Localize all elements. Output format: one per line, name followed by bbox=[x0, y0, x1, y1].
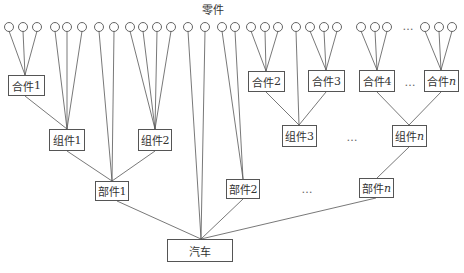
node-bujian2: 部件2 bbox=[226, 179, 260, 199]
part-circle bbox=[184, 23, 193, 32]
connector-line bbox=[235, 31, 243, 179]
node-index: n bbox=[417, 130, 424, 143]
node-index: 3 bbox=[307, 130, 314, 143]
connector-line bbox=[361, 31, 377, 70]
part-circle bbox=[261, 23, 270, 32]
connector-line bbox=[143, 31, 155, 129]
connector-line bbox=[409, 92, 441, 125]
connector-line bbox=[23, 31, 25, 75]
node-index: 1 bbox=[120, 185, 127, 198]
connector-line bbox=[112, 31, 114, 181]
connector-line bbox=[375, 31, 377, 70]
part-circle bbox=[333, 23, 342, 32]
part-circle bbox=[247, 23, 256, 32]
node-index: n bbox=[384, 182, 391, 195]
connector-line bbox=[99, 31, 112, 181]
node-zujian2: 组件2 bbox=[138, 129, 172, 151]
node-heji4: 合件4 bbox=[359, 70, 395, 92]
node-index: 2 bbox=[274, 75, 281, 88]
node-label: 组件 bbox=[285, 128, 307, 144]
connector-line bbox=[188, 31, 201, 239]
connector-line bbox=[377, 147, 409, 178]
connector-line bbox=[201, 31, 205, 239]
node-label: 组件 bbox=[141, 132, 163, 148]
node-heji1: 合件1 bbox=[8, 75, 45, 96]
part-circle bbox=[274, 23, 283, 32]
part-circle bbox=[421, 23, 430, 32]
node-label: 合件 bbox=[12, 78, 34, 94]
node-label: 部件 bbox=[229, 181, 251, 197]
node-label: 组件 bbox=[395, 128, 417, 144]
connector-line bbox=[201, 199, 243, 239]
part-circle bbox=[292, 23, 301, 32]
part-circle bbox=[435, 23, 444, 32]
node-qiche: 汽车 bbox=[167, 239, 233, 262]
connector-line bbox=[25, 96, 67, 129]
connector-line bbox=[117, 201, 201, 239]
connector-line bbox=[441, 31, 452, 70]
node-zujian3: 组件3 bbox=[282, 125, 317, 147]
part-circle bbox=[231, 23, 240, 32]
connector-line bbox=[25, 31, 37, 75]
node-label: 合件 bbox=[312, 73, 334, 89]
node-index: 2 bbox=[163, 134, 170, 147]
node-heji2: 合件2 bbox=[248, 71, 285, 92]
connector-line bbox=[326, 31, 337, 70]
part-circle bbox=[201, 23, 210, 32]
connector-line bbox=[155, 31, 157, 129]
connector-line bbox=[296, 31, 299, 125]
part-circle bbox=[357, 23, 366, 32]
node-label: 部件 bbox=[362, 180, 384, 196]
node-label: 汽车 bbox=[189, 243, 211, 259]
node-heji3: 合件3 bbox=[308, 70, 345, 92]
connector-line bbox=[201, 198, 376, 239]
part-circle bbox=[78, 23, 87, 32]
ellipsis-mark: … bbox=[347, 132, 358, 143]
node-bujian1: 部件1 bbox=[95, 181, 129, 201]
part-circle bbox=[383, 23, 392, 32]
ellipsis-mark: … bbox=[302, 184, 313, 195]
part-circle bbox=[153, 23, 162, 32]
connector-line bbox=[9, 31, 25, 75]
node-index: 3 bbox=[334, 75, 341, 88]
node-label: 合件 bbox=[427, 73, 449, 89]
node-label: 合件 bbox=[252, 74, 274, 90]
connector-line bbox=[377, 92, 409, 125]
connector-line bbox=[439, 31, 441, 70]
connector-line bbox=[222, 31, 243, 179]
node-index: 4 bbox=[385, 75, 392, 88]
ellipsis-mark: … bbox=[405, 77, 416, 88]
connector-line bbox=[299, 92, 326, 125]
part-circle bbox=[306, 23, 315, 32]
ellipsis-mark: … bbox=[403, 21, 414, 32]
connector-line bbox=[67, 151, 112, 181]
connector-line bbox=[265, 31, 266, 71]
part-circle bbox=[218, 23, 227, 32]
connector-line bbox=[130, 31, 155, 129]
connector-line bbox=[55, 31, 67, 129]
node-index: 1 bbox=[75, 134, 82, 147]
connector-line bbox=[266, 92, 299, 125]
connector-line bbox=[251, 31, 266, 71]
part-circle bbox=[33, 23, 42, 32]
part-circle bbox=[448, 23, 457, 32]
node-zujian1: 组件1 bbox=[49, 129, 85, 151]
node-index: 2 bbox=[251, 183, 258, 196]
part-circle bbox=[51, 23, 60, 32]
part-circle bbox=[19, 23, 28, 32]
part-circle bbox=[167, 23, 176, 32]
node-bujiann: 部件n bbox=[359, 178, 394, 198]
node-label: 组件 bbox=[53, 132, 75, 148]
node-index: n bbox=[449, 75, 456, 88]
part-circle bbox=[126, 23, 135, 32]
connector-line bbox=[67, 31, 82, 129]
part-circle bbox=[5, 23, 14, 32]
connector-line bbox=[112, 151, 155, 181]
part-circle bbox=[139, 23, 148, 32]
part-circle bbox=[95, 23, 104, 32]
node-label: 合件 bbox=[363, 73, 385, 89]
parts-circles bbox=[5, 23, 457, 32]
connector-line bbox=[324, 31, 326, 70]
connector-line bbox=[266, 31, 278, 71]
part-circle bbox=[110, 23, 119, 32]
